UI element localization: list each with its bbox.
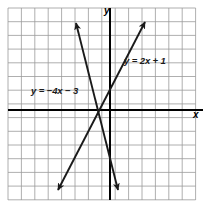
y-axis-label: y bbox=[104, 6, 110, 16]
coordinate-plane-figure: y = 2x + 1 y = −4x − 3 y x bbox=[0, 0, 204, 212]
plot-canvas bbox=[0, 0, 204, 212]
x-axis-label: x bbox=[193, 110, 199, 120]
equation-label-line1: y = −4x − 3 bbox=[31, 86, 78, 96]
equation-label-line2: y = 2x + 1 bbox=[124, 56, 166, 66]
